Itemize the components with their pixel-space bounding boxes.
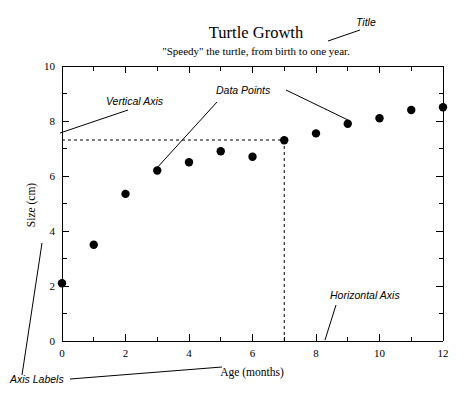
x-tick-label: 12 xyxy=(438,347,449,359)
data-point xyxy=(58,279,66,287)
y-axis-ticks xyxy=(62,66,69,341)
data-point-series xyxy=(58,103,447,287)
y-axis-tick-labels: 0 2 4 6 8 10 xyxy=(44,60,56,347)
annotation-axis-labels-leader-y xyxy=(22,243,42,375)
annotation-vertical-axis: Vertical Axis xyxy=(60,95,164,133)
guide-lines xyxy=(62,140,284,341)
chart-figure: Turtle Growth "Speedy" the turtle, from … xyxy=(0,0,472,401)
annotation-title-leader xyxy=(328,30,360,41)
x-tick-label: 10 xyxy=(374,347,386,359)
data-point xyxy=(217,147,225,155)
data-point xyxy=(90,241,98,249)
annotation-axis-labels: Axis Labels xyxy=(9,243,222,385)
annotation-vertical-axis-leader xyxy=(60,110,128,133)
annotation-title: Title xyxy=(328,16,376,41)
data-point xyxy=(121,190,129,198)
data-point xyxy=(185,158,193,166)
annotation-data-points-leader-right xyxy=(286,90,348,120)
x-axis-label: Age (months) xyxy=(220,366,284,379)
data-point xyxy=(248,153,256,161)
annotation-title-label: Title xyxy=(356,16,376,28)
annotation-axis-labels-label: Axis Labels xyxy=(9,373,64,385)
x-tick-label: 4 xyxy=(186,347,192,359)
y-tick-label: 8 xyxy=(50,115,56,127)
x-tick-label: 8 xyxy=(313,347,319,359)
y-tick-label: 10 xyxy=(44,60,56,72)
y-tick-label: 4 xyxy=(50,225,56,237)
x-tick-label: 2 xyxy=(123,347,129,359)
data-point xyxy=(280,136,288,144)
data-point xyxy=(407,106,415,114)
annotation-horizontal-axis-leader xyxy=(325,305,336,340)
y-tick-label: 6 xyxy=(50,170,56,182)
data-point xyxy=(375,114,383,122)
annotation-horizontal-axis: Horizontal Axis xyxy=(325,289,400,340)
x-tick-label: 6 xyxy=(250,347,256,359)
y-tick-label: 0 xyxy=(50,335,56,347)
y-tick-label: 2 xyxy=(50,280,56,292)
annotation-data-points-label: Data Points xyxy=(216,84,271,96)
data-point xyxy=(439,103,447,111)
annotation-axis-labels-leader-x xyxy=(70,367,222,379)
x-tick-label: 0 xyxy=(59,347,65,359)
data-point xyxy=(344,120,352,128)
x-axis-tick-labels: 0 2 4 6 8 10 12 xyxy=(59,347,448,359)
y-axis-label: Size (cm) xyxy=(25,183,38,228)
annotation-horizontal-axis-label: Horizontal Axis xyxy=(330,289,400,301)
turtle-growth-chart: Turtle Growth "Speedy" the turtle, from … xyxy=(0,0,472,401)
annotation-vertical-axis-label: Vertical Axis xyxy=(106,95,164,107)
chart-subtitle: "Speedy" the turtle, from birth to one y… xyxy=(162,45,350,57)
data-point xyxy=(312,129,320,137)
chart-title: Turtle Growth xyxy=(209,23,304,42)
